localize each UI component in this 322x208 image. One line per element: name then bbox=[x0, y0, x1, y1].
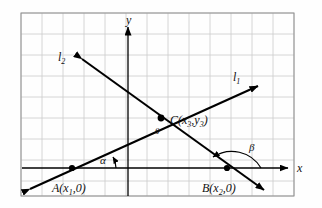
axis-y-label: y bbox=[125, 13, 132, 27]
geometry-figure: y x l2 l1 A(x1,0) B(x2,0) C(x3,y3) α β θ bbox=[0, 0, 322, 208]
angle-theta-label: θ bbox=[155, 126, 160, 136]
point-A-dot bbox=[69, 165, 75, 171]
diagram-canvas: y x l2 l1 A(x1,0) B(x2,0) C(x3,y3) α β θ bbox=[0, 0, 322, 208]
point-C-dot bbox=[158, 115, 165, 122]
line-l2-label: l2 bbox=[58, 50, 65, 66]
point-B-dot bbox=[224, 165, 230, 171]
point-B-label: B(x2,0) bbox=[202, 181, 236, 197]
line-l1 bbox=[30, 86, 258, 189]
line-l1-label: l1 bbox=[233, 70, 240, 86]
angle-beta-label: β bbox=[248, 141, 255, 153]
angle-alpha-label: α bbox=[100, 154, 106, 166]
axis-x-label: x bbox=[296, 161, 303, 175]
point-A-label: A(x1,0) bbox=[51, 181, 86, 197]
angle-arc-alpha bbox=[113, 157, 116, 168]
